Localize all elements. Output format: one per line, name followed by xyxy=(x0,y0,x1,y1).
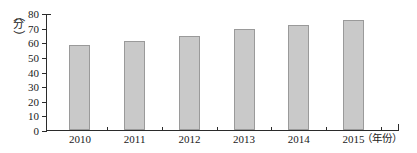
y-axis-tick-label: 10 xyxy=(28,111,39,122)
y-axis-tick xyxy=(42,58,47,59)
bar-2012 xyxy=(179,36,200,130)
y-axis-tick-label: 70 xyxy=(28,23,39,34)
y-axis-tick-label: 80 xyxy=(28,9,39,20)
x-axis-tick xyxy=(162,127,163,131)
y-axis-unit-label: （ 分 ） xyxy=(9,12,27,40)
x-axis-tick-label: 2014 xyxy=(288,134,310,145)
y-axis-tick xyxy=(42,29,47,30)
y-axis-tick-label: 60 xyxy=(28,38,39,49)
x-axis-line xyxy=(46,130,399,131)
y-axis-tick xyxy=(42,131,47,132)
x-axis-tick-label: 2011 xyxy=(124,134,146,145)
y-axis-tick xyxy=(42,116,47,117)
x-axis-tick xyxy=(217,127,218,131)
x-axis-unit-label: （年份） xyxy=(362,134,402,145)
y-axis-tick-label: 30 xyxy=(28,82,39,93)
plot-area: 0102030405060708020102011201220132014201… xyxy=(46,14,399,131)
bar-2013 xyxy=(234,29,255,130)
x-axis-tick xyxy=(326,127,327,131)
y-axis-tick-label: 40 xyxy=(28,67,39,78)
y-axis-tick xyxy=(42,14,47,15)
y-axis-tick-label: 0 xyxy=(34,126,40,137)
x-axis-tick xyxy=(381,127,382,131)
y-axis-unit-close-paren: ） xyxy=(14,27,22,45)
x-axis-tick-label: 2010 xyxy=(69,134,91,145)
y-axis-tick xyxy=(42,73,47,74)
x-axis-tick xyxy=(107,127,108,131)
bar-2015 xyxy=(343,20,364,130)
x-axis-tick-label: 2013 xyxy=(233,134,255,145)
y-axis-unit-open-paren: （ xyxy=(14,7,22,25)
bar-2014 xyxy=(288,25,309,130)
x-axis-end-cap xyxy=(398,124,399,131)
y-axis-tick xyxy=(42,102,47,103)
y-axis-tick xyxy=(42,87,47,88)
x-axis-tick-label: 2012 xyxy=(178,134,200,145)
bar-chart: （ 分 ） 0102030405060708020102011201220132… xyxy=(0,0,417,153)
y-axis-tick-label: 20 xyxy=(28,96,39,107)
bar-2010 xyxy=(69,45,90,130)
bar-2011 xyxy=(124,41,145,130)
x-axis-tick xyxy=(271,127,272,131)
y-axis-tick-label: 50 xyxy=(28,52,39,63)
y-axis-tick xyxy=(42,43,47,44)
